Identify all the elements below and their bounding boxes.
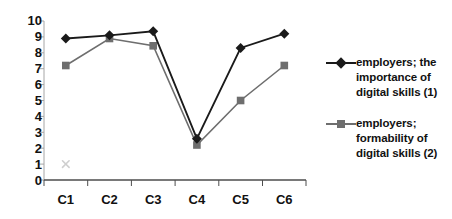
x-axis-labels: C1 C2 C3 C4 C5 C6 bbox=[0, 0, 310, 219]
legend-label-line-1: employers; the bbox=[356, 55, 437, 70]
legend-label-line-2: formability of bbox=[356, 131, 437, 146]
x-tick-c1: C1 bbox=[57, 193, 74, 206]
x-tick-c5: C5 bbox=[232, 193, 249, 206]
plot-area: 10 9 8 7 6 5 4 3 2 1 0 C1 C2 C3 C4 C5 C6 bbox=[0, 0, 310, 219]
legend-label-importance: employers; the importance of digital ski… bbox=[356, 55, 437, 101]
chart-legend: employers; the importance of digital ski… bbox=[326, 55, 452, 176]
legend-item-formability: employers; formability of digital skills… bbox=[326, 116, 452, 162]
line-chart: 10 9 8 7 6 5 4 3 2 1 0 C1 C2 C3 C4 C5 C6 bbox=[0, 0, 452, 219]
legend-label-formability: employers; formability of digital skills… bbox=[356, 116, 437, 162]
x-tick-c2: C2 bbox=[101, 193, 118, 206]
legend-label-line-3: digital skills (1) bbox=[356, 85, 437, 100]
legend-label-line-3: digital skills (2) bbox=[356, 146, 437, 161]
legend-key-diamond bbox=[326, 56, 356, 70]
x-tick-c3: C3 bbox=[145, 193, 162, 206]
legend-label-line-2: importance of bbox=[356, 70, 437, 85]
square-marker-icon bbox=[337, 120, 345, 128]
x-tick-c4: C4 bbox=[189, 193, 206, 206]
legend-key-square bbox=[326, 117, 356, 131]
legend-label-line-1: employers; bbox=[356, 116, 437, 131]
legend-item-importance: employers; the importance of digital ski… bbox=[326, 55, 452, 101]
x-tick-c6: C6 bbox=[276, 193, 293, 206]
diamond-marker-icon bbox=[335, 57, 346, 68]
